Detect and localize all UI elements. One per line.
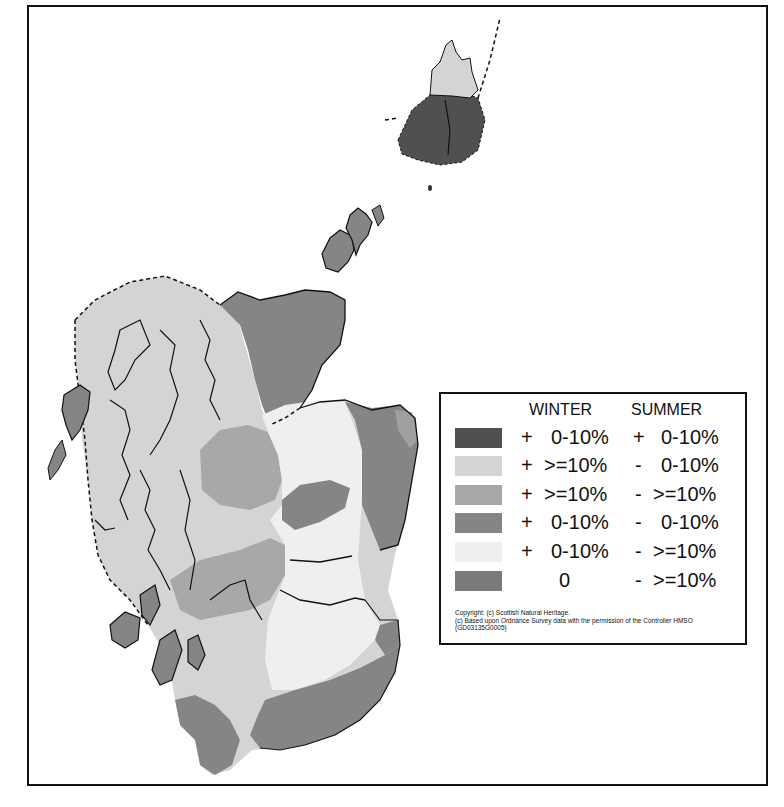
copyright-line-3: (GD03135G0005) (455, 624, 693, 632)
winter-sign: + (521, 426, 533, 449)
legend-swatch (455, 542, 502, 562)
legend-row: + >=10% - >=10% (441, 483, 745, 509)
shetland-region (385, 18, 500, 191)
summer-value: >=10% (653, 483, 716, 506)
summer-sign: + (633, 426, 645, 449)
summer-value: >=10% (653, 569, 716, 592)
legend-swatch (455, 571, 502, 591)
legend-row: + 0-10% - 0-10% (441, 511, 745, 537)
copyright-line-1: Copyright: (c) Scottish Natural Heritage… (455, 609, 693, 617)
legend-header-winter: WINTER (529, 401, 592, 419)
winter-value: >=10% (544, 483, 607, 506)
winter-value: >=10% (544, 454, 607, 477)
summer-value: >=10% (653, 540, 716, 563)
legend-swatch (455, 428, 502, 448)
legend-row: + 0-10% - >=10% (441, 540, 745, 566)
winter-sign: + (521, 454, 533, 477)
winter-value: 0 (559, 569, 570, 592)
winter-sign: + (521, 540, 533, 563)
copyright-notice: Copyright: (c) Scottish Natural Heritage… (455, 609, 693, 632)
legend-row: + >=10% - 0-10% (441, 454, 745, 480)
winter-value: 0-10% (551, 426, 609, 449)
legend-header-summer: SUMMER (631, 401, 702, 419)
winter-sign: + (521, 483, 533, 506)
legend-row: + 0-10% + 0-10% (441, 426, 745, 452)
summer-sign: - (635, 511, 642, 534)
summer-value: 0-10% (661, 454, 719, 477)
map-legend: WINTER SUMMER + 0-10% + 0-10% + >=10% - … (439, 392, 747, 645)
winter-value: 0-10% (551, 511, 609, 534)
mainland (48, 276, 418, 775)
summer-sign: - (635, 540, 642, 563)
summer-value: 0-10% (661, 511, 719, 534)
winter-value: 0-10% (551, 540, 609, 563)
orkney-region (322, 205, 384, 272)
legend-swatch (455, 456, 502, 476)
summer-sign: - (635, 454, 642, 477)
legend-row: 0 - >=10% (441, 569, 745, 595)
winter-sign: + (521, 511, 533, 534)
copyright-line-2: (c) Based upon Ordnance Survey data with… (455, 617, 693, 625)
legend-swatch (455, 513, 502, 533)
summer-sign: - (635, 483, 642, 506)
summer-value: 0-10% (661, 426, 719, 449)
legend-swatch (455, 485, 502, 505)
summer-sign: - (635, 569, 642, 592)
